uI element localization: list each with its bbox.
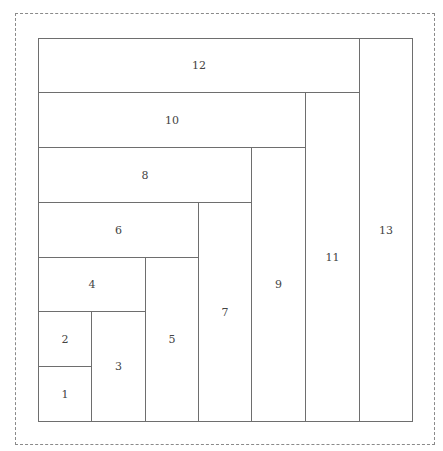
cell-9: 9 [251,147,306,422]
cell-label: 11 [326,251,340,264]
cell-label: 8 [142,169,149,182]
cell-label: 7 [222,306,229,319]
cell-1: 1 [38,366,92,422]
cell-label: 6 [115,224,122,237]
cell-label: 5 [169,333,176,346]
cell-label: 9 [275,278,282,291]
cell-label: 3 [115,360,122,373]
cell-8: 8 [38,147,252,203]
cell-label: 10 [165,114,179,127]
cell-3: 3 [91,311,146,422]
cell-label: 12 [192,59,206,72]
cell-7: 7 [198,202,252,422]
cell-5: 5 [145,257,199,422]
cell-10: 10 [38,92,306,148]
cell-label: 2 [62,333,69,346]
cell-2: 2 [38,311,92,367]
cell-label: 1 [62,388,69,401]
cell-13: 13 [359,38,413,422]
cell-11: 11 [305,92,360,422]
cell-4: 4 [38,257,146,312]
cell-label: 13 [379,224,393,237]
cell-12: 12 [38,38,360,93]
cell-label: 4 [89,278,96,291]
cell-6: 6 [38,202,199,258]
